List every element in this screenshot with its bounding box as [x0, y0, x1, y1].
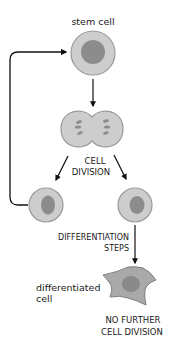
differentiation-label-2: STEPS [104, 244, 129, 253]
dividing-cell [61, 111, 123, 147]
no-further-division-label-1: NO FURTHER [105, 315, 160, 325]
cell-division-label-2: DIVISION [72, 167, 110, 177]
no-further-division-label-2: CELL DIVISION [101, 327, 163, 337]
self-renewal-loop-arrow [10, 52, 66, 205]
differentiated-cell-label-2: cell [36, 293, 52, 304]
arrow-to-left-daughter [56, 156, 68, 180]
daughter-differentiating-cell [118, 188, 152, 222]
arrow-to-right-daughter [114, 155, 126, 179]
differentiated-cell-label-1: differentiated [36, 282, 100, 293]
cell-division-label-1: CELL [85, 156, 106, 166]
stem-cell [71, 31, 115, 75]
differentiation-label-1: DIFFERENTIATION [58, 233, 129, 242]
stem-cell-diagram: stem cell CELL DIVISION DIFF [0, 0, 175, 353]
stem-cell-label: stem cell [71, 16, 114, 27]
differentiated-cell [103, 267, 156, 305]
daughter-stem-cell [29, 188, 63, 222]
